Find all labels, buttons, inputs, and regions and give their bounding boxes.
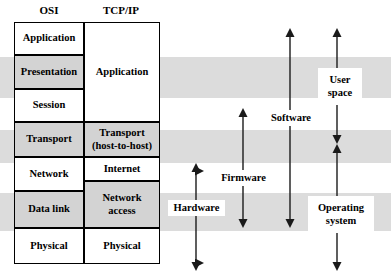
label-operating-system: Operating system — [308, 196, 374, 233]
tcpip-layer-transport: Transport (host-to-host) — [84, 122, 160, 157]
tcpip-layer-network-access: Network access — [84, 181, 160, 228]
tcpip-transport-line1: Transport — [99, 127, 144, 139]
label-user-space: User space — [318, 68, 362, 105]
osi-layer-network: Network — [14, 157, 84, 191]
osi-layer-transport: Transport — [14, 122, 84, 157]
label-user-space-line1: User — [330, 74, 351, 86]
label-firmware: Firmware — [216, 170, 271, 186]
label-operating-system-line1: Operating — [318, 202, 364, 214]
osi-layer-presentation: Presentation — [14, 55, 84, 89]
tcpip-layer-application: Application — [84, 22, 160, 122]
osi-layer-session: Session — [14, 89, 84, 122]
tcpip-network-access-line1: Network — [102, 192, 141, 204]
tcpip-layer-physical: Physical — [84, 228, 160, 264]
osi-layer-physical: Physical — [14, 228, 84, 264]
osi-tcpip-diagram: OSI TCP/IP Application Presentation Sess… — [0, 0, 391, 279]
column-header-tcpip: TCP/IP — [82, 4, 160, 16]
column-header-osi: OSI — [14, 4, 84, 16]
tcpip-network-access-line2: access — [108, 205, 135, 217]
label-hardware: Hardware — [168, 200, 225, 216]
tcpip-layer-internet: Internet — [84, 157, 160, 181]
label-operating-system-line2: system — [326, 215, 356, 227]
osi-layer-application: Application — [14, 22, 84, 55]
label-software: Software — [264, 110, 318, 126]
label-user-space-line2: space — [328, 87, 353, 99]
osi-layer-data-link: Data link — [14, 191, 84, 228]
tcpip-transport-line2: (host-to-host) — [92, 140, 152, 152]
